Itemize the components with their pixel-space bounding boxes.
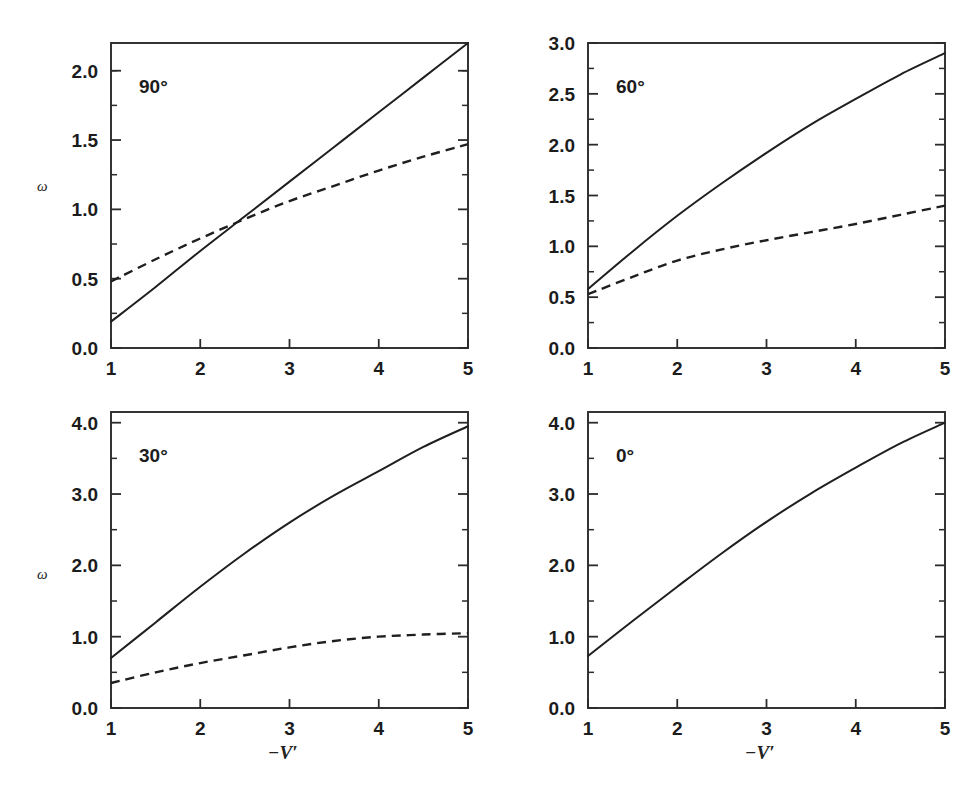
y-tick-label: 2.0 — [72, 555, 98, 576]
panel-angle-label: 0° — [616, 445, 634, 466]
panel-angle-label: 30° — [139, 445, 168, 466]
x-tick-label: 3 — [284, 718, 295, 739]
y-tick-label: 4.0 — [549, 413, 575, 434]
y-tick-label: 2.0 — [549, 555, 575, 576]
y-tick-label: 0.0 — [72, 338, 98, 359]
x-tick-label: 3 — [761, 358, 772, 379]
x-tick-label: 5 — [463, 718, 474, 739]
x-axis-label-left: −V′ — [268, 742, 298, 764]
y-tick-label: 1.0 — [549, 627, 575, 648]
x-tick-label: 4 — [850, 358, 861, 379]
plot-frame — [588, 412, 945, 708]
panel-30-svg: 123450.01.02.03.04.030° — [0, 390, 480, 802]
curve-solid — [588, 423, 945, 656]
panel-90: 123450.00.51.01.52.090° — [0, 0, 480, 392]
y-tick-label: 2.0 — [549, 135, 575, 156]
x-tick-label: 1 — [583, 718, 594, 739]
y-tick-label: 0.0 — [549, 338, 575, 359]
x-tick-label: 2 — [195, 358, 206, 379]
panel-angle-label: 90° — [139, 76, 168, 97]
x-tick-label: 2 — [672, 718, 683, 739]
panel-90-svg: 123450.00.51.01.52.090° — [0, 0, 480, 392]
y-tick-label: 1.0 — [72, 199, 98, 220]
y-tick-label: 0.0 — [549, 698, 575, 719]
x-tick-label: 2 — [672, 358, 683, 379]
y-tick-label: 3.0 — [549, 33, 575, 54]
panel-30: 123450.01.02.03.04.030° — [0, 390, 480, 802]
x-tick-label: 5 — [940, 358, 951, 379]
y-axis-label-top: ω — [37, 178, 48, 195]
y-tick-label: 1.5 — [72, 130, 99, 151]
x-tick-label: 4 — [373, 358, 384, 379]
y-tick-label: 2.5 — [549, 84, 576, 105]
x-tick-label: 1 — [583, 358, 594, 379]
x-tick-label: 3 — [284, 358, 295, 379]
x-tick-label: 3 — [761, 718, 772, 739]
panel-60-svg: 123450.00.51.01.52.02.53.060° — [477, 0, 957, 392]
y-tick-label: 3.0 — [549, 484, 575, 505]
y-tick-label: 4.0 — [72, 413, 98, 434]
y-tick-label: 0.5 — [549, 287, 576, 308]
curve-dashed — [111, 144, 468, 281]
panel-angle-label: 60° — [616, 76, 645, 97]
y-tick-label: 2.0 — [72, 61, 98, 82]
x-tick-label: 4 — [373, 718, 384, 739]
x-tick-label: 5 — [940, 718, 951, 739]
y-tick-label: 1.0 — [72, 627, 98, 648]
figure-root: 123450.00.51.01.52.090° 123450.00.51.01.… — [0, 0, 957, 802]
panel-0: 123450.01.02.03.04.00° — [477, 390, 957, 802]
x-axis-label-right: −V′ — [745, 742, 775, 764]
curve-dashed — [588, 206, 945, 294]
y-tick-label: 1.0 — [549, 236, 575, 257]
y-tick-label: 0.0 — [72, 698, 98, 719]
x-tick-label: 4 — [850, 718, 861, 739]
x-tick-label: 2 — [195, 718, 206, 739]
y-tick-label: 1.5 — [549, 186, 576, 207]
y-tick-label: 0.5 — [72, 269, 99, 290]
x-tick-label: 5 — [463, 358, 474, 379]
y-tick-label: 3.0 — [72, 484, 98, 505]
panel-0-svg: 123450.01.02.03.04.00° — [477, 390, 957, 802]
curve-dashed — [111, 633, 468, 683]
y-axis-label-bottom: ω — [37, 566, 48, 583]
x-tick-label: 1 — [106, 718, 117, 739]
x-tick-label: 1 — [106, 358, 117, 379]
panel-60: 123450.00.51.01.52.02.53.060° — [477, 0, 957, 392]
